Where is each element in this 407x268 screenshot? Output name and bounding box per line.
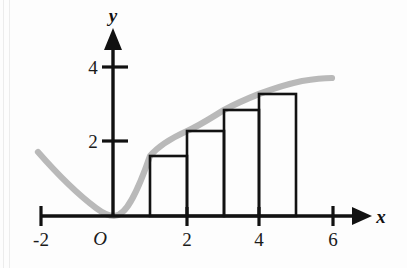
y-axis-label: y bbox=[107, 5, 118, 26]
x-axis-arrow-icon bbox=[352, 207, 372, 225]
x-axis-label: x bbox=[375, 206, 386, 227]
x-tick-label-minus2: -2 bbox=[33, 229, 49, 250]
y-axis-arrow-icon bbox=[104, 28, 122, 50]
riemann-rect-2 bbox=[187, 131, 224, 216]
x-tick-label-2: 2 bbox=[182, 229, 192, 250]
x-tick-label-4: 4 bbox=[254, 229, 264, 250]
figure-container: y x O -2 2 4 6 2 4 bbox=[0, 0, 407, 268]
riemann-sum-plot: y x O -2 2 4 6 2 4 bbox=[0, 0, 407, 268]
riemann-rect-4 bbox=[259, 94, 296, 216]
y-tick-label-4: 4 bbox=[88, 57, 98, 78]
function-curve bbox=[38, 78, 332, 216]
origin-label: O bbox=[93, 228, 107, 249]
riemann-rect-3 bbox=[224, 110, 259, 216]
x-tick-label-6: 6 bbox=[328, 229, 338, 250]
y-tick-label-2: 2 bbox=[88, 131, 98, 152]
riemann-rect-1 bbox=[150, 156, 187, 216]
